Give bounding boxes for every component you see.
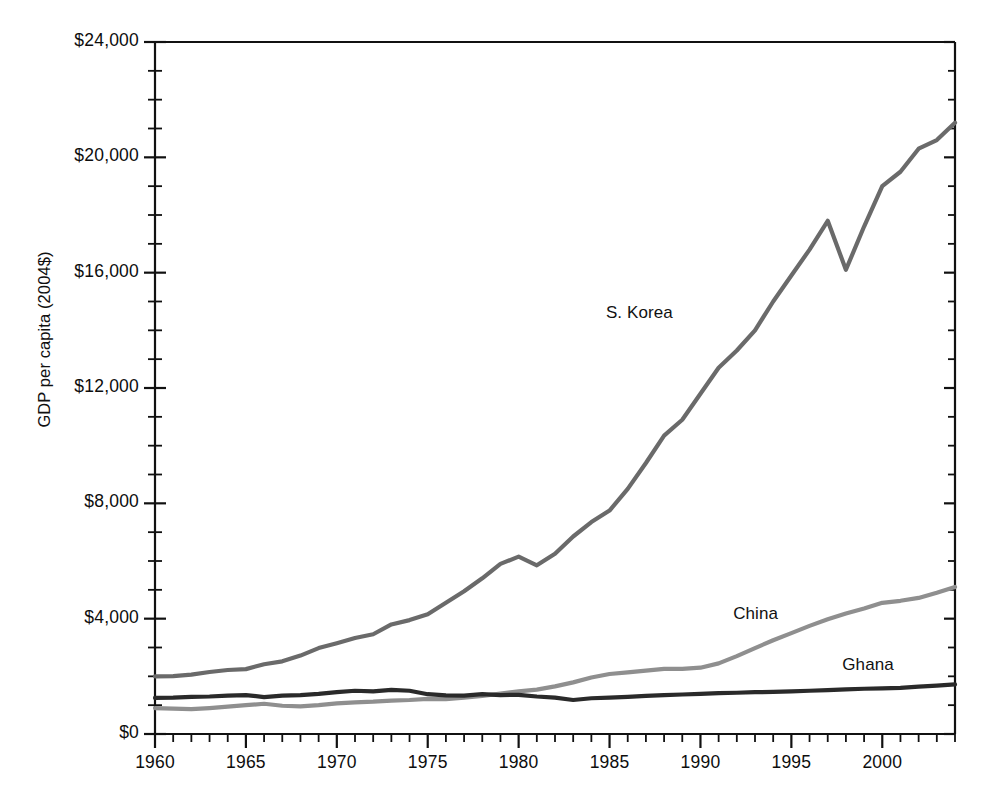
y-tick-label: $12,000: [74, 376, 139, 397]
x-tick-label: 1965: [226, 752, 266, 773]
x-tick-label: 1985: [590, 752, 630, 773]
y-tick-label: $8,000: [84, 491, 139, 512]
x-tick-label: 1995: [771, 752, 811, 773]
y-tick-label: $24,000: [74, 30, 139, 51]
series-label-ghana: Ghana: [842, 655, 894, 675]
y-tick-label: $20,000: [74, 145, 139, 166]
y-tick-label: $0: [119, 722, 139, 743]
x-tick-label: 1990: [681, 752, 721, 773]
series-line-s-korea: [155, 123, 955, 677]
axes-group: [144, 42, 955, 748]
series-group: [155, 123, 955, 709]
gdp-per-capita-line-chart: $0$4,000$8,000$12,000$16,000$20,000$24,0…: [0, 0, 988, 808]
plot-area: [0, 0, 988, 808]
y-tick-label: $4,000: [84, 607, 139, 628]
y-tick-label: $16,000: [74, 261, 139, 282]
x-tick-label: 1970: [317, 752, 357, 773]
series-label-china: China: [733, 604, 778, 624]
x-tick-label: 1975: [408, 752, 448, 773]
x-tick-label: 2000: [862, 752, 902, 773]
y-axis-title: GDP per capita (2004$): [35, 200, 54, 480]
x-tick-label: 1980: [499, 752, 539, 773]
x-tick-label: 1960: [135, 752, 175, 773]
series-label-s-korea: S. Korea: [606, 303, 673, 323]
